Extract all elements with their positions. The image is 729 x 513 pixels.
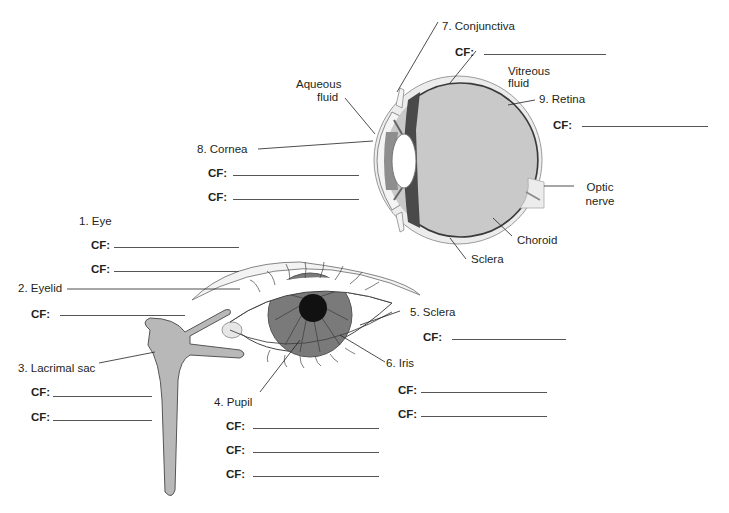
cf-conjunctiva-1: CF: <box>455 46 474 59</box>
cf-pupil-3: CF: <box>226 468 245 481</box>
label-cornea: 8. Cornea <box>197 143 248 156</box>
cf-sclera-1: CF: <box>423 331 442 344</box>
blank-iris-1[interactable] <box>421 392 547 393</box>
label-retina: 9. Retina <box>539 93 585 106</box>
cf-iris-2: CF: <box>398 408 417 421</box>
blank-eyelid-1[interactable] <box>60 315 185 316</box>
cf-lacrimal-1: CF: <box>31 386 50 399</box>
eye-anatomy-artwork <box>0 0 729 513</box>
cf-retina-1: CF: <box>553 119 572 132</box>
label-iris: 6. Iris <box>386 357 414 370</box>
blank-lacrimal-1[interactable] <box>53 396 152 397</box>
label-vitreous-2: fluid <box>508 77 529 90</box>
label-sclera: 5. Sclera <box>410 306 455 319</box>
blank-eye-1[interactable] <box>114 247 239 248</box>
blank-cornea-1[interactable] <box>233 175 359 176</box>
blank-sclera-1[interactable] <box>452 339 566 340</box>
blank-pupil-3[interactable] <box>253 476 379 477</box>
blank-pupil-1[interactable] <box>253 428 379 429</box>
label-eyelid: 2. Eyelid <box>18 282 62 295</box>
label-optic-2: nerve <box>582 195 618 208</box>
label-aqueous-1: Aqueous <box>296 78 341 91</box>
blank-cornea-2[interactable] <box>233 199 359 200</box>
blank-conjunctiva-1[interactable] <box>484 54 606 55</box>
cf-eye-1: CF: <box>91 239 110 252</box>
cf-pupil-1: CF: <box>226 420 245 433</box>
cf-cornea-1: CF: <box>208 167 227 180</box>
cf-iris-1: CF: <box>398 384 417 397</box>
blank-pupil-2[interactable] <box>253 452 379 453</box>
blank-eye-2[interactable] <box>114 271 239 272</box>
cf-cornea-2: CF: <box>208 191 227 204</box>
blank-lacrimal-2[interactable] <box>53 420 152 421</box>
cf-pupil-2: CF: <box>226 444 245 457</box>
cf-eye-2: CF: <box>91 263 110 276</box>
label-pupil: 4. Pupil <box>214 396 252 409</box>
blank-iris-2[interactable] <box>421 416 547 417</box>
cf-lacrimal-2: CF: <box>31 411 50 424</box>
label-sclera-side: Sclera <box>471 253 504 266</box>
label-lacrimal-sac: 3. Lacrimal sac <box>18 362 95 375</box>
label-aqueous-2: fluid <box>317 91 338 104</box>
label-optic-1: Optic <box>582 181 618 194</box>
eyeball-cross-section <box>374 76 544 244</box>
label-conjunctiva: 7. Conjunctiva <box>442 20 515 33</box>
label-choroid: Choroid <box>517 234 557 247</box>
label-eye: 1. Eye <box>79 215 112 228</box>
blank-retina-1[interactable] <box>582 126 708 127</box>
cf-eyelid-1: CF: <box>31 308 50 321</box>
